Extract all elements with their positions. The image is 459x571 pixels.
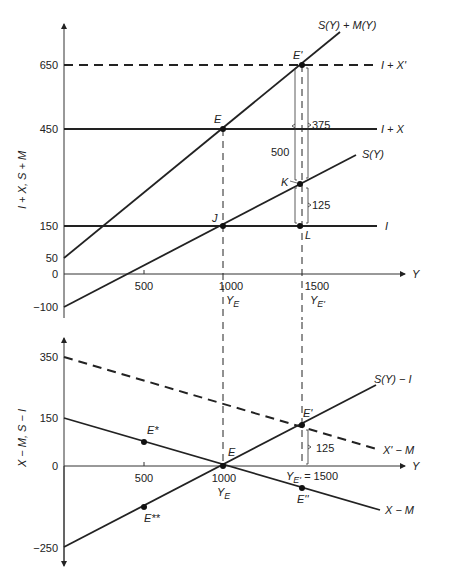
lower-ytick-150: 150 xyxy=(40,412,58,424)
upper-ye-label: YE xyxy=(226,294,240,309)
brace-500-tip xyxy=(292,124,295,128)
point-e-upper-label: E xyxy=(214,113,222,125)
brace-375-label: 375 xyxy=(312,119,330,131)
brace-125-lower-tip xyxy=(308,445,311,449)
upper-ytick-150: 150 xyxy=(40,220,58,232)
brace-125 xyxy=(306,188,308,223)
upper-ytick-50: 50 xyxy=(46,252,58,264)
point-estarstar-label: E** xyxy=(144,512,161,524)
lower-ytick-350: 350 xyxy=(40,351,58,363)
brace-125-left xyxy=(295,188,297,223)
lower-ytick-0: 0 xyxy=(52,460,58,472)
upper-ytick-450: 450 xyxy=(40,123,58,135)
point-e-upper xyxy=(220,126,226,132)
point-estar xyxy=(141,439,147,445)
upper-ytick-neg100: −100 xyxy=(33,301,58,313)
s-plus-m-label: S(Y) + M(Y) xyxy=(318,19,377,31)
brace-375-tip xyxy=(308,123,311,127)
diagram-canvas: 650 450 150 50 0 −100 500 1000 1500 YE Y… xyxy=(0,0,459,571)
brace-125-label: 125 xyxy=(312,199,330,211)
xprime-minus-m-label: X' − M xyxy=(382,444,415,456)
point-j-label: J xyxy=(211,212,218,224)
point-e-lower-label: E xyxy=(228,446,236,458)
upper-xtick-500: 500 xyxy=(135,280,153,292)
point-eprime-upper xyxy=(299,62,305,68)
point-l-label: L xyxy=(305,229,311,241)
point-estarstar xyxy=(141,504,147,510)
upper-panel: 650 450 150 50 0 −100 500 1000 1500 YE Y… xyxy=(16,19,420,320)
i-label: I xyxy=(385,220,388,232)
s-label: S(Y) xyxy=(362,148,384,160)
lower-yep-label: YE' = 1500 xyxy=(286,470,338,485)
point-k-leader xyxy=(290,181,297,183)
lower-ytick-neg250: −250 xyxy=(33,542,58,554)
lower-ye-label: YE xyxy=(217,486,231,501)
lower-xtick-500: 500 xyxy=(135,472,153,484)
brace-125-lower xyxy=(306,430,308,464)
point-eprime-lower-label: E' xyxy=(303,407,313,419)
i-plus-x-label: I + X xyxy=(381,123,405,135)
upper-ytick-0: 0 xyxy=(52,268,58,280)
upper-ytick-650: 650 xyxy=(40,59,58,71)
upper-y-axis-label: I + X, S + M xyxy=(16,150,28,209)
i-plus-xprime-label: I + X' xyxy=(381,59,407,71)
x-minus-m-label: X − M xyxy=(384,504,415,516)
point-eprime-lower xyxy=(299,422,305,428)
upper-xtick-1000: 1000 xyxy=(219,280,243,292)
point-estar-label: E* xyxy=(147,424,159,436)
brace-500 xyxy=(295,68,297,180)
brace-125-lower-label: 125 xyxy=(316,442,334,454)
point-edoubleprime-label: E'' xyxy=(297,493,309,505)
point-l xyxy=(297,223,303,229)
upper-xtick-1500: 1500 xyxy=(305,280,329,292)
lower-xtick-1000: 1000 xyxy=(212,472,236,484)
lower-panel: 350 150 0 −250 500 1000 YE YE' = 1500 Y … xyxy=(16,322,420,566)
brace-375 xyxy=(306,68,308,178)
brace-500-label: 500 xyxy=(271,146,289,158)
point-edoubleprime xyxy=(299,485,305,491)
lower-x-axis-label: Y xyxy=(412,460,420,472)
upper-yep-label: YE' xyxy=(310,294,325,309)
point-eprime-upper-label: E' xyxy=(293,49,303,61)
xprime-minus-m-line xyxy=(64,357,380,450)
point-j xyxy=(220,223,226,229)
lower-y-axis-label: X − M, S − I xyxy=(16,409,28,468)
upper-x-axis-label: Y xyxy=(412,268,420,280)
point-k-label: K xyxy=(281,176,289,188)
point-e-lower xyxy=(220,463,226,469)
s-minus-i-label: S(Y) − I xyxy=(374,373,412,385)
brace-125-tip xyxy=(308,203,311,207)
point-k xyxy=(297,181,303,187)
